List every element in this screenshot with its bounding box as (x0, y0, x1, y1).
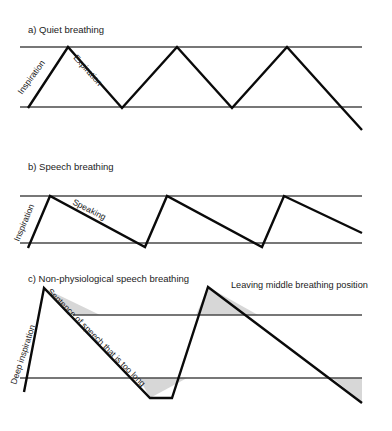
figure-svg: a) Quiet breathing Inspiration Expiratio… (0, 0, 392, 431)
breathing-patterns-figure: a) Quiet breathing Inspiration Expiratio… (0, 0, 392, 431)
panel-c-title: c) Non-physiological speech breathing (28, 273, 189, 284)
panel-a-inspiration-label: Inspiration (16, 58, 48, 96)
panel-a-expiration-label: Expiration (72, 53, 105, 88)
panel-c-leaving-middle-position-label: Leaving middle breathing position (231, 280, 368, 290)
panel-b-title: b) Speech breathing (28, 161, 114, 172)
panel-b: b) Speech breathing Inspiration Speaking (12, 161, 362, 248)
panel-c-deep-inspiration-label: Deep inspiration (8, 323, 37, 385)
panel-c: c) Non-physiological speech breathing De… (8, 273, 367, 403)
panel-c-sentence-too-long-label: Sentence of speech that is too long (46, 286, 148, 388)
panel-a: a) Quiet breathing Inspiration Expiratio… (16, 24, 362, 130)
panel-a-title: a) Quiet breathing (28, 24, 104, 35)
